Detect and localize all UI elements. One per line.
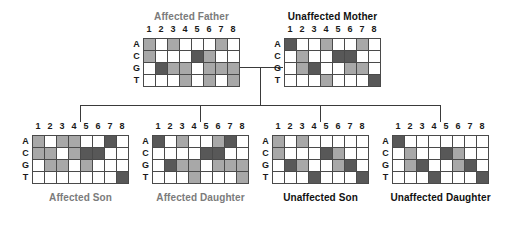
genotype-cell-G2[interactable]	[285, 160, 297, 172]
genotype-cell-C2[interactable]	[156, 51, 168, 63]
genotype-cell-A2[interactable]	[405, 136, 417, 148]
genotype-cell-C8[interactable]	[357, 148, 369, 160]
genotype-cell-T8[interactable]	[228, 75, 240, 87]
genotype-cell-G2[interactable]	[156, 63, 168, 75]
genotype-cell-A4[interactable]	[69, 136, 81, 148]
genotype-cell-T5[interactable]	[441, 172, 453, 184]
genotype-cell-A3[interactable]	[309, 39, 321, 51]
genotype-cell-T1[interactable]	[144, 75, 156, 87]
genotype-cell-C6[interactable]	[213, 148, 225, 160]
genotype-cell-A4[interactable]	[180, 39, 192, 51]
genotype-cell-A2[interactable]	[45, 136, 57, 148]
genotype-cell-C5[interactable]	[321, 148, 333, 160]
genotype-cell-C3[interactable]	[168, 51, 180, 63]
genotype-cell-G4[interactable]	[429, 160, 441, 172]
genotype-cell-T7[interactable]	[465, 172, 477, 184]
genotype-cell-G5[interactable]	[441, 160, 453, 172]
genotype-cell-A5[interactable]	[201, 136, 213, 148]
genotype-cell-T3[interactable]	[309, 75, 321, 87]
genotype-cell-C8[interactable]	[117, 148, 129, 160]
genotype-cell-C7[interactable]	[465, 148, 477, 160]
genotype-cell-A7[interactable]	[225, 136, 237, 148]
genotype-cell-C3[interactable]	[177, 148, 189, 160]
genotype-cell-G7[interactable]	[357, 63, 369, 75]
genotype-cell-A8[interactable]	[369, 39, 381, 51]
genotype-cell-T3[interactable]	[168, 75, 180, 87]
genotype-cell-C6[interactable]	[453, 148, 465, 160]
genotype-cell-T2[interactable]	[297, 75, 309, 87]
genotype-cell-G3[interactable]	[168, 63, 180, 75]
genotype-cell-T6[interactable]	[213, 172, 225, 184]
genotype-cell-T3[interactable]	[177, 172, 189, 184]
genotype-cell-T1[interactable]	[393, 172, 405, 184]
genotype-cell-C4[interactable]	[180, 51, 192, 63]
genotype-cell-G8[interactable]	[228, 63, 240, 75]
genotype-cell-C1[interactable]	[273, 148, 285, 160]
genotype-cell-A3[interactable]	[177, 136, 189, 148]
genotype-cell-A6[interactable]	[93, 136, 105, 148]
genotype-cell-T2[interactable]	[285, 172, 297, 184]
genotype-cell-T4[interactable]	[189, 172, 201, 184]
genotype-cell-C5[interactable]	[441, 148, 453, 160]
genotype-cell-C5[interactable]	[333, 51, 345, 63]
genotype-cell-T3[interactable]	[417, 172, 429, 184]
genotype-cell-C1[interactable]	[393, 148, 405, 160]
genotype-cell-T1[interactable]	[273, 172, 285, 184]
genotype-cell-T7[interactable]	[225, 172, 237, 184]
genotype-cell-G2[interactable]	[165, 160, 177, 172]
genotype-cell-G2[interactable]	[45, 160, 57, 172]
genotype-cell-C5[interactable]	[201, 148, 213, 160]
genotype-cell-T1[interactable]	[33, 172, 45, 184]
genotype-cell-G8[interactable]	[117, 160, 129, 172]
genotype-cell-G6[interactable]	[333, 160, 345, 172]
genotype-cell-T1[interactable]	[153, 172, 165, 184]
genotype-cell-T7[interactable]	[357, 75, 369, 87]
genotype-cell-A8[interactable]	[228, 39, 240, 51]
genotype-cell-G6[interactable]	[453, 160, 465, 172]
genotype-cell-A2[interactable]	[165, 136, 177, 148]
genotype-cell-G7[interactable]	[345, 160, 357, 172]
genotype-cell-T6[interactable]	[333, 172, 345, 184]
genotype-cell-C6[interactable]	[333, 148, 345, 160]
genotype-cell-G7[interactable]	[465, 160, 477, 172]
genotype-cell-G6[interactable]	[204, 63, 216, 75]
genotype-cell-C7[interactable]	[345, 148, 357, 160]
genotype-cell-G1[interactable]	[393, 160, 405, 172]
genotype-cell-T6[interactable]	[453, 172, 465, 184]
genotype-cell-T7[interactable]	[216, 75, 228, 87]
genotype-cell-A2[interactable]	[297, 39, 309, 51]
genotype-cell-G4[interactable]	[180, 63, 192, 75]
genotype-cell-A7[interactable]	[465, 136, 477, 148]
genotype-cell-G5[interactable]	[192, 63, 204, 75]
genotype-cell-A6[interactable]	[345, 39, 357, 51]
genotype-cell-G7[interactable]	[216, 63, 228, 75]
genotype-cell-T2[interactable]	[45, 172, 57, 184]
genotype-cell-G6[interactable]	[93, 160, 105, 172]
genotype-cell-T8[interactable]	[357, 172, 369, 184]
genotype-cell-C7[interactable]	[225, 148, 237, 160]
genotype-cell-A4[interactable]	[321, 39, 333, 51]
genotype-cell-C2[interactable]	[165, 148, 177, 160]
genotype-cell-T7[interactable]	[345, 172, 357, 184]
genotype-cell-A2[interactable]	[285, 136, 297, 148]
genotype-cell-C7[interactable]	[357, 51, 369, 63]
genotype-cell-G1[interactable]	[285, 63, 297, 75]
genotype-cell-T6[interactable]	[93, 172, 105, 184]
genotype-cell-C2[interactable]	[297, 51, 309, 63]
genotype-cell-T4[interactable]	[69, 172, 81, 184]
genotype-cell-A8[interactable]	[477, 136, 489, 148]
genotype-cell-G8[interactable]	[357, 160, 369, 172]
genotype-cell-C8[interactable]	[369, 51, 381, 63]
genotype-cell-C1[interactable]	[33, 148, 45, 160]
genotype-cell-T5[interactable]	[192, 75, 204, 87]
genotype-cell-C7[interactable]	[216, 51, 228, 63]
genotype-cell-T8[interactable]	[237, 172, 249, 184]
genotype-cell-C3[interactable]	[309, 51, 321, 63]
genotype-cell-G4[interactable]	[309, 160, 321, 172]
genotype-cell-C4[interactable]	[69, 148, 81, 160]
genotype-cell-T5[interactable]	[81, 172, 93, 184]
genotype-cell-A7[interactable]	[345, 136, 357, 148]
genotype-grid[interactable]	[392, 135, 489, 184]
genotype-cell-A1[interactable]	[393, 136, 405, 148]
genotype-cell-A8[interactable]	[237, 136, 249, 148]
